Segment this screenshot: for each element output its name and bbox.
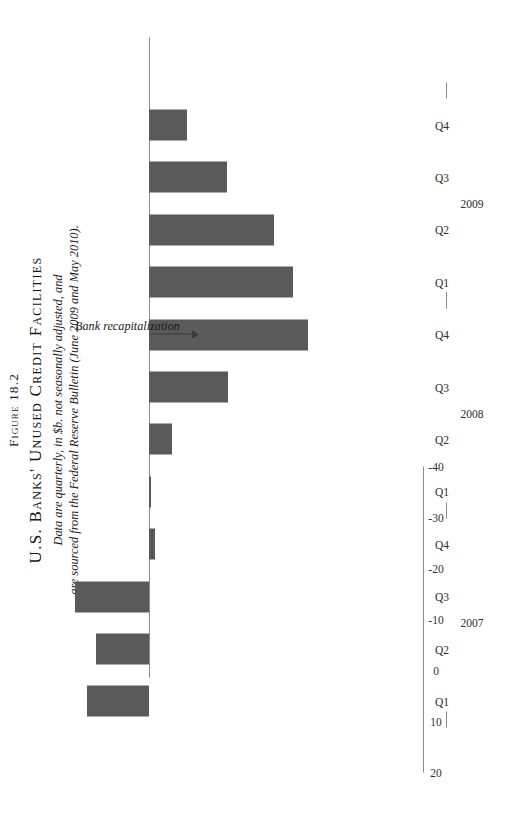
- year-group-label: 2008: [442, 407, 502, 419]
- value-tick-label: -30: [416, 511, 456, 523]
- bar-chart-plot: 20100-10-20-30-40Q1Q2Q3Q4Q1Q2Q3Q4Q1Q2Q3Q…: [0, 0, 506, 819]
- year-separator-tick: [446, 292, 447, 308]
- category-tick-label: Q3: [422, 171, 462, 183]
- bar[interactable]: [149, 371, 228, 402]
- year-separator-tick: [446, 502, 447, 518]
- category-tick-label: Q1: [422, 695, 462, 707]
- year-group-label: 2009: [442, 197, 502, 209]
- value-axis-line: [423, 466, 424, 772]
- value-tick-label: 10: [416, 715, 456, 727]
- figure-page: Figure 18.2 U.S. Banks' Unused Credit Fa…: [0, 0, 506, 819]
- value-tick-label: 0: [416, 664, 456, 676]
- value-tick-label: -20: [416, 562, 456, 574]
- value-tick-label: -40: [416, 460, 456, 472]
- bar[interactable]: [75, 581, 149, 612]
- bar[interactable]: [149, 109, 187, 140]
- category-tick-label: Q1: [422, 485, 462, 497]
- category-tick-label: Q2: [422, 223, 462, 235]
- bar[interactable]: [149, 214, 274, 245]
- category-tick-label: Q2: [422, 643, 462, 655]
- year-group-label: 2007: [442, 616, 502, 628]
- bar[interactable]: [149, 162, 227, 193]
- category-tick-label: Q2: [422, 433, 462, 445]
- category-tick-label: Q1: [422, 276, 462, 288]
- bar[interactable]: [149, 528, 155, 559]
- category-tick-label: Q3: [422, 590, 462, 602]
- bar[interactable]: [149, 424, 172, 455]
- bar[interactable]: [87, 686, 149, 717]
- annotation-arrowhead-icon: [192, 330, 199, 338]
- category-tick-label: Q4: [422, 119, 462, 131]
- category-tick-label: Q4: [422, 328, 462, 340]
- year-separator-tick: [446, 711, 447, 727]
- bar[interactable]: [96, 633, 149, 664]
- year-separator-tick: [446, 82, 447, 98]
- category-tick-label: Q3: [422, 381, 462, 393]
- category-tick-label: Q4: [422, 538, 462, 550]
- value-tick-label: 20: [416, 766, 456, 778]
- annotation-label: Bank recapitalization: [75, 319, 180, 334]
- bar[interactable]: [149, 266, 293, 297]
- bar[interactable]: [149, 476, 151, 507]
